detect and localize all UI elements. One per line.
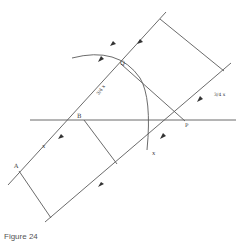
point-label-B: B [77,112,82,119]
arrow-icon [58,134,64,139]
perp-B [84,120,117,164]
arrow-icon [160,133,166,139]
perp-Q-P [121,64,185,121]
arrow-icon [110,41,116,46]
arrow-icon [137,39,143,44]
lower-ray [45,63,231,222]
geometry-diagram: A B Q P x x 3/4 x 3/4 x [0,0,248,242]
perp-A [19,171,51,218]
figure-caption: Figure 24 [4,232,38,241]
label-x-upper: x [42,142,46,149]
perp-top [160,19,224,71]
upper-ray [8,12,166,185]
arrow-icon [98,56,104,62]
arrow-icon [98,182,104,187]
arrow-icon [197,96,203,102]
point-label-P: P [185,122,189,128]
point-label-Q: Q [120,59,125,66]
label-three-quarter-x-right: 3/4 x [214,92,226,97]
label-x-lower: x [152,149,156,156]
label-three-quarter-x-upper: 3/4 x [95,83,106,95]
point-label-A: A [13,162,19,169]
